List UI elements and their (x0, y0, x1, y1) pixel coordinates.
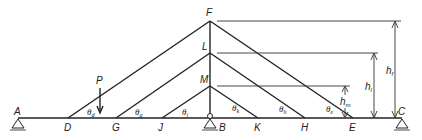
node-label-d: D (64, 122, 71, 133)
node-label-e: E (349, 122, 356, 133)
node-label-l: L (202, 41, 208, 52)
node-label-g: G (112, 122, 120, 133)
pin-support-a-icon (12, 119, 24, 128)
member-df (68, 21, 210, 118)
angle-label-d: θd (87, 107, 95, 118)
member-gl (116, 53, 210, 118)
member-mk (210, 86, 258, 118)
node-label-f: F (206, 7, 213, 18)
angle-label-j: θj (182, 107, 188, 118)
pin-support-b-icon (204, 119, 216, 128)
load-label: P (96, 75, 103, 86)
angle-label-e: θe (326, 104, 333, 115)
node-label-m: M (200, 74, 209, 85)
pin-support-c-icon (396, 119, 408, 128)
node-label-b: B (219, 122, 226, 133)
node-label-h: H (301, 122, 309, 133)
dim-label-hm: hm (340, 96, 351, 108)
node-label-j: J (157, 122, 164, 133)
node-label-k: K (254, 122, 262, 133)
angle-label-g: θg (135, 107, 142, 118)
structure-diagram: P A D G J B K H E C F L M θd θg θj θk θh… (0, 0, 422, 140)
dim-label-hf: hf (386, 65, 395, 77)
angle-label-h: θh (279, 104, 286, 115)
node-label-c: C (398, 106, 406, 117)
hinge-b-icon (208, 114, 213, 119)
member-lh (210, 53, 305, 118)
node-label-a: A (13, 106, 21, 117)
dim-label-hl: hl (365, 81, 373, 93)
